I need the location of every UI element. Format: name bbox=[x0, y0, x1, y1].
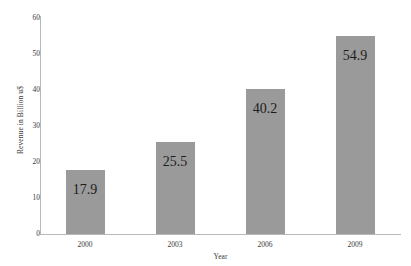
x-axis-tick-label: 2003 bbox=[145, 240, 205, 249]
bar-value-label: 54.9 bbox=[336, 48, 375, 64]
y-axis-tick-label: 30 bbox=[6, 122, 40, 130]
x-axis-tick-label: 2000 bbox=[55, 240, 115, 249]
bar-chart: Revenue in Billion u$ 0102030405060 17.9… bbox=[0, 0, 411, 266]
y-axis-tick-label: 20 bbox=[6, 158, 40, 166]
x-axis-tick-label: 2009 bbox=[325, 240, 385, 249]
x-axis-tick-label: 2006 bbox=[235, 240, 295, 249]
bar-value-label: 25.5 bbox=[156, 154, 195, 170]
y-axis-tick bbox=[36, 234, 40, 235]
bar[interactable]: 40.2 bbox=[246, 89, 285, 234]
y-axis-tick-label: 40 bbox=[6, 86, 40, 94]
y-axis-title: Revenue in Billion u$ bbox=[14, 0, 28, 240]
plot-area: 17.925.540.254.9 bbox=[40, 18, 400, 234]
bar[interactable]: 17.9 bbox=[66, 170, 105, 234]
bar[interactable]: 25.5 bbox=[156, 142, 195, 234]
bar[interactable]: 54.9 bbox=[336, 36, 375, 234]
bar-value-label: 17.9 bbox=[66, 182, 105, 198]
y-axis-tick-label: 10 bbox=[6, 194, 40, 202]
bar-value-label: 40.2 bbox=[246, 101, 285, 117]
y-axis-tick-label: 50 bbox=[6, 50, 40, 58]
y-axis-tick-label: 60 bbox=[6, 14, 40, 22]
y-axis-tick-label: 0 bbox=[6, 230, 40, 238]
x-axis-title: Year bbox=[40, 252, 401, 261]
x-axis-line bbox=[40, 234, 401, 235]
